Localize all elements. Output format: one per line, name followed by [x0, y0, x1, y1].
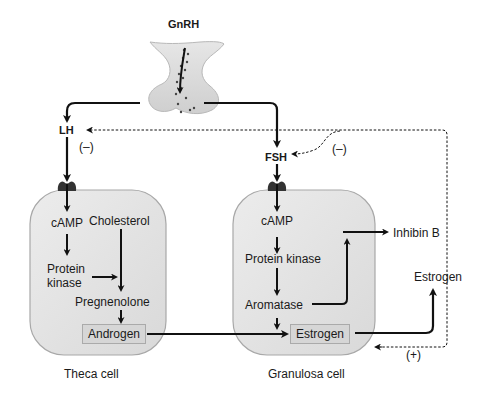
estrogen-positive-feedback-label: (+) [406, 348, 421, 362]
theca-camp-label: cAMP [51, 216, 83, 230]
granulosa-cell-caption: Granulosa cell [268, 367, 345, 381]
pituitary-to-lh-arrow [67, 103, 140, 121]
granulosa-estrogen-box: Estrogen [290, 324, 350, 344]
gnrh-label: GnRH [168, 17, 199, 31]
theca-protein-kinase-label-line1: Protein [47, 262, 85, 276]
granulosa-camp-label: cAMP [261, 214, 293, 228]
theca-cholesterol-label: Cholesterol [89, 214, 150, 228]
fsh-label: FSH [265, 150, 287, 164]
estrogen-output-label: Estrogen [414, 270, 462, 284]
pituitary-to-fsh-arrow [204, 103, 277, 146]
fsh-negative-feedback-label: (–) [332, 142, 347, 156]
granulosa-protein-kinase-label: Protein kinase [245, 252, 321, 266]
theca-pregnenolone-label: Pregnenolone [75, 295, 150, 309]
lh-negative-feedback-label: (–) [79, 140, 94, 154]
theca-cell-caption: Theca cell [64, 367, 119, 381]
ovarian-hormone-diagram: GnRH LH (–) FSH (–) cAMP Cholesterol Pro… [0, 0, 494, 398]
theca-androgen-box: Androgen [82, 324, 146, 344]
lh-label: LH [59, 123, 74, 137]
diagram-graphics [0, 0, 494, 398]
theca-protein-kinase-label-line2: kinase [47, 276, 82, 290]
granulosa-aromatase-label: Aromatase [245, 298, 303, 312]
inhibin-b-label: Inhibin B [393, 226, 440, 240]
